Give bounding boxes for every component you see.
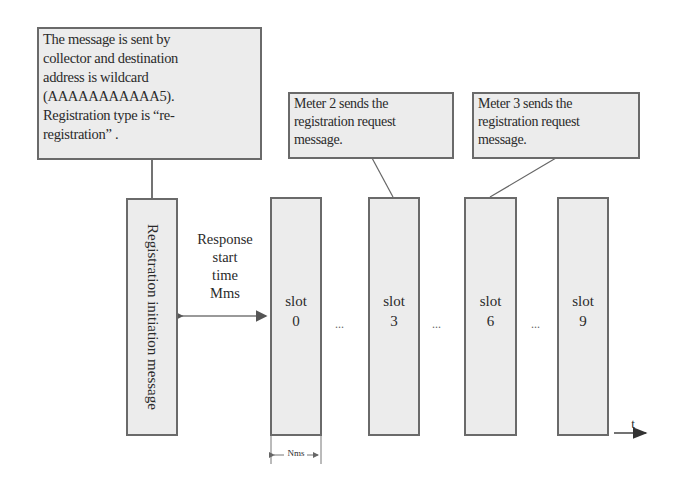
response-line: start <box>185 248 265 266</box>
time-axis-label: t <box>627 415 639 433</box>
callout-line: registration request <box>478 113 634 131</box>
slot-word: slot <box>272 291 320 311</box>
callout-line: Registration type is “re- <box>43 106 256 125</box>
callout-line: message. <box>478 131 634 149</box>
slot-width-label: Nms <box>284 447 308 459</box>
slot-word: slot <box>370 291 418 311</box>
slot-number: 0 <box>272 311 320 331</box>
callout-line: (AAAAAAAAAAA5). <box>43 87 256 106</box>
callout-line: registration request <box>294 113 448 131</box>
callout-line: registration” . <box>43 125 256 144</box>
collector-callout: The message is sent by collector and des… <box>37 27 262 160</box>
slot-word: slot <box>559 291 607 311</box>
ellipsis: ... <box>531 317 540 332</box>
slot-0: slot0 <box>270 197 322 436</box>
callout-line: Meter 3 sends the <box>478 95 634 113</box>
response-line: Response <box>185 230 265 248</box>
ellipsis: ... <box>432 317 441 332</box>
slot-6: slot6 <box>464 197 517 436</box>
callout-line: address is wildcard <box>43 68 256 87</box>
registration-initiation-box: Registration initiation message <box>126 198 178 436</box>
slot-number: 6 <box>466 311 515 331</box>
callout-line: Meter 2 sends the <box>294 95 448 113</box>
callout-line: message. <box>294 131 448 149</box>
response-line: time <box>185 266 265 284</box>
callout-line: The message is sent by <box>43 30 256 49</box>
slot-number: 3 <box>370 311 418 331</box>
meter2-callout: Meter 2 sends the registration request m… <box>288 92 454 159</box>
meter3-callout: Meter 3 sends the registration request m… <box>472 92 640 159</box>
response-start-time-label: Response start time Mms <box>185 230 265 302</box>
registration-initiation-label: Registration initiation message <box>144 224 161 410</box>
slot-number: 9 <box>559 311 607 331</box>
ellipsis: ... <box>335 317 344 332</box>
callout-line: collector and destination <box>43 49 256 68</box>
slot-3: slot3 <box>368 197 420 436</box>
response-line: Mms <box>185 284 265 302</box>
slot-9: slot9 <box>557 197 609 436</box>
slot-word: slot <box>466 291 515 311</box>
